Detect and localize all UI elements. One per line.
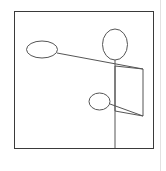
figure-svg [0,0,166,171]
canvas-background [0,0,166,171]
drawing-canvas [0,0,166,171]
